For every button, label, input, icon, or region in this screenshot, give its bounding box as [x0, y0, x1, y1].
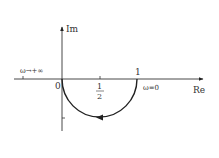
svg-text:2: 2: [97, 92, 102, 101]
real-axis: [14, 76, 203, 79]
imag-axis-label: Im: [66, 24, 79, 34]
omega-zero-label: ω=0: [143, 84, 159, 92]
direction-arrow-icon: [96, 115, 103, 121]
omega-infinity-label: ω→+∞: [20, 67, 43, 75]
one-label: 1: [135, 67, 141, 77]
origin-label: 0: [55, 81, 61, 91]
half-label: 1 2: [96, 82, 104, 101]
real-axis-label: Re: [193, 85, 205, 95]
svg-text:1: 1: [97, 82, 102, 91]
nyquist-diagram: Im Re 0 1 1 2 ω=0 ω→+∞: [0, 0, 219, 158]
